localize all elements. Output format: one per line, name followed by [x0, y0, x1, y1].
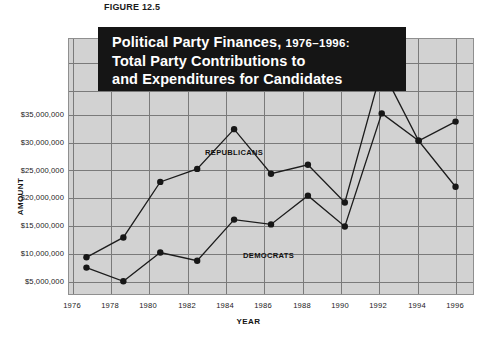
y-tick-label: $25,000,000 — [0, 166, 64, 175]
data-point — [268, 221, 274, 227]
y-tick-label: $30,000,000 — [0, 138, 64, 147]
x-tick-label: 1976 — [52, 301, 92, 310]
data-point — [120, 234, 126, 240]
data-point — [157, 179, 163, 185]
x-axis-title: YEAR — [0, 317, 497, 326]
data-point — [415, 138, 421, 144]
data-point — [120, 278, 126, 284]
data-point — [305, 162, 311, 168]
y-tick-label: $10,000,000 — [0, 249, 64, 258]
y-axis-title: AMOUNT — [16, 167, 25, 227]
x-tick-label: 1990 — [320, 301, 360, 310]
series-line-republicans — [86, 69, 455, 257]
chart-title-line-2: Total Party Contributions to — [112, 52, 400, 70]
x-tick-label: 1992 — [358, 301, 398, 310]
chart-title-line-1: Political Party Finances, 1976–1996: — [112, 33, 400, 52]
data-point — [452, 118, 458, 124]
data-point — [452, 184, 458, 190]
figure-number-label: FIGURE 12.5 — [104, 2, 160, 12]
x-tick-label: 1986 — [243, 301, 283, 310]
y-axis-tick-labels: $35,000,000 $30,000,000 $25,000,000 $20,… — [0, 0, 64, 337]
x-tick-label: 1988 — [282, 301, 322, 310]
series-label-republicans: REPUBLICANS — [205, 148, 263, 157]
y-tick-label: $35,000,000 — [0, 110, 64, 119]
data-point — [194, 166, 200, 172]
y-tick-label: $20,000,000 — [0, 193, 64, 202]
data-point — [342, 199, 348, 205]
x-tick-label: 1982 — [167, 301, 207, 310]
y-tick-label: $5,000,000 — [0, 277, 64, 286]
y-tick-label: $15,000,000 — [0, 221, 64, 230]
chart-title-main: Political Party Finances, — [112, 34, 281, 50]
data-point — [194, 258, 200, 264]
chart-title-year-range: 1976–1996: — [285, 37, 349, 49]
data-point — [231, 216, 237, 222]
chart-title-line-3: and Expenditures for Candidates — [112, 70, 400, 88]
chart-title-banner: Political Party Finances, 1976–1996: Tot… — [98, 27, 406, 91]
series-label-democrats: DEMOCRATS — [243, 251, 294, 260]
data-point — [157, 249, 163, 255]
x-tick-label: 1996 — [435, 301, 475, 310]
x-tick-label: 1994 — [397, 301, 437, 310]
data-point — [379, 110, 385, 116]
data-point — [231, 126, 237, 132]
data-point — [268, 171, 274, 177]
data-point — [342, 223, 348, 229]
data-point — [83, 264, 89, 270]
x-tick-label: 1978 — [90, 301, 130, 310]
figure-root: FIGURE 12.5 $35,000,000 $30,000,000 $25,… — [0, 0, 497, 337]
x-tick-label: 1984 — [205, 301, 245, 310]
data-point — [305, 192, 311, 198]
data-point — [83, 254, 89, 260]
x-tick-label: 1980 — [128, 301, 168, 310]
